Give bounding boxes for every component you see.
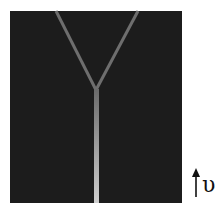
velocity-label: υ — [191, 166, 215, 198]
left-branch — [56, 11, 96, 90]
right-branch — [96, 11, 138, 90]
up-arrow-icon — [191, 168, 201, 198]
y-junction-diagram — [0, 0, 223, 211]
velocity-symbol: υ — [202, 174, 215, 196]
stem — [94, 89, 99, 203]
